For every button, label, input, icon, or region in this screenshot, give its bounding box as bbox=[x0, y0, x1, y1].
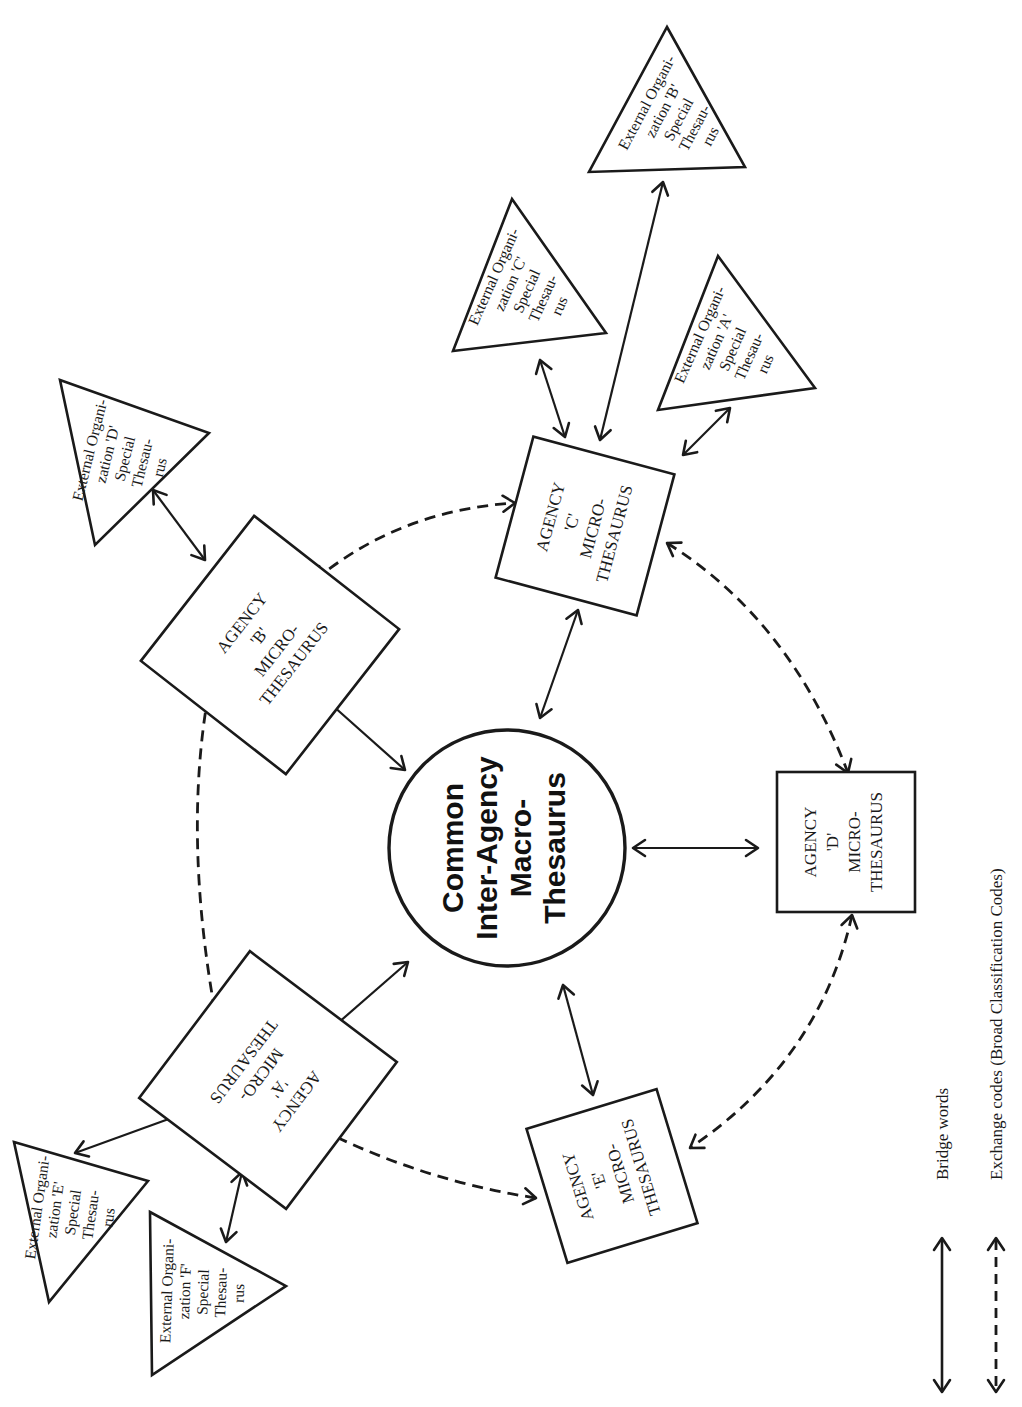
external-F-line-5: rus bbox=[230, 1284, 248, 1304]
exchange-curve-agency-E-agency-A bbox=[318, 1128, 536, 1198]
external-E-node: External Organi- zation 'E' Special Thes… bbox=[14, 1142, 148, 1302]
hub-label-line-1: Common bbox=[436, 783, 469, 913]
bridge-line-agency-C-external-B bbox=[600, 182, 663, 440]
bridge-line-agency-A-external-F bbox=[226, 1172, 242, 1242]
hub-label-line-2: Inter-Agency bbox=[470, 756, 503, 940]
legend: Bridge words Exchange codes (Broad Class… bbox=[933, 868, 1006, 1392]
legend-exchange-symbol bbox=[988, 1238, 1004, 1392]
bridge-line-agency-C-external-C bbox=[540, 360, 565, 437]
external-B-node: External Organi- zation 'B' Special Thes… bbox=[589, 27, 745, 186]
agency-D-line-1: AGENCY bbox=[801, 807, 820, 878]
external-E-line-5: rus bbox=[98, 1207, 117, 1228]
bridge-line-agency-B-external-D bbox=[153, 490, 205, 560]
hub-label-line-4: Thesaurus bbox=[538, 772, 571, 924]
legend-bridge-label: Bridge words bbox=[933, 1088, 952, 1180]
exchange-curve-agency-D-agency-E bbox=[690, 915, 852, 1148]
bridge-line-hub-agency-C bbox=[540, 610, 578, 718]
agency-C-node: AGENCY 'C' MICRO- THESAURUS bbox=[496, 437, 675, 616]
exchange-curve-agency-A-agency-B bbox=[197, 675, 218, 1028]
external-D-node: External Organi- zation 'D' Special Thes… bbox=[60, 380, 209, 545]
agency-B-node: AGENCY 'B' MICRO- THESAURUS bbox=[141, 516, 399, 774]
agency-D-node: AGENCY 'D' MICRO- THESAURUS bbox=[777, 772, 915, 912]
external-F-line-1: External Organi- bbox=[156, 1238, 177, 1343]
agency-E-node: AGENCY 'E' MICRO- THESAURUS bbox=[527, 1089, 698, 1263]
agency-D-line-3: MICRO- bbox=[845, 811, 864, 873]
external-C-node: External Organi- zation 'C' Special Thes… bbox=[453, 199, 606, 357]
exchange-curve-agency-C-agency-D bbox=[667, 543, 848, 773]
bridge-line-hub-agency-E bbox=[563, 985, 593, 1095]
external-A-node: External Organi- zation 'A' Special Thes… bbox=[658, 256, 815, 415]
external-F-line-2: zation 'F' bbox=[175, 1263, 194, 1320]
external-F-line-4: Thesau- bbox=[211, 1267, 230, 1317]
agency-D-line-4: THESAURUS bbox=[867, 792, 886, 892]
agency-D-line-2: 'D' bbox=[823, 833, 842, 851]
legend-exchange-label: Exchange codes (Broad Classification Cod… bbox=[987, 868, 1006, 1180]
arrowhead-icon bbox=[690, 1135, 704, 1148]
bridge-line-agency-C-external-A bbox=[683, 408, 730, 455]
exchange-curve-agency-B-agency-C bbox=[315, 503, 515, 580]
thesaurus-network-diagram: Common Inter-Agency Macro- Thesaurus AGE… bbox=[0, 0, 1022, 1407]
agency-A-node: AGENCY 'A' MICRO- THESAURUS bbox=[139, 951, 397, 1209]
legend-bridge-symbol bbox=[934, 1238, 950, 1392]
external-F-node: External Organi- zation 'F' Special Thes… bbox=[150, 1212, 286, 1375]
hub-node: Common Inter-Agency Macro- Thesaurus bbox=[389, 730, 625, 966]
external-F-line-3: Special bbox=[193, 1269, 212, 1315]
hub-label-line-3: Macro- bbox=[504, 799, 537, 897]
